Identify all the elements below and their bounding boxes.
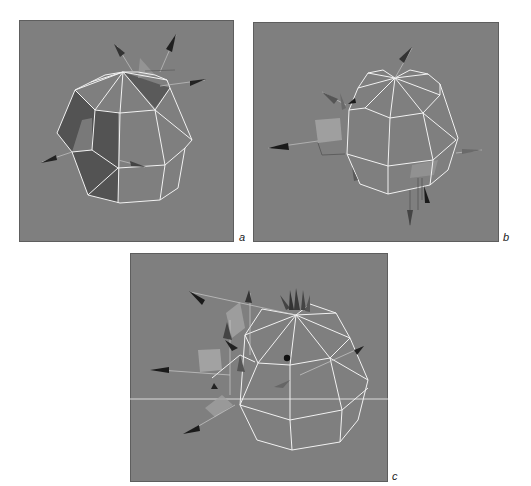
panel-label-b: b [503, 231, 509, 243]
viewport-panel-b [253, 22, 499, 242]
viewport-panel-c [130, 253, 388, 482]
cone-arrow-icons [41, 34, 206, 167]
viewport-panel-a [19, 20, 234, 242]
wireframe-mesh-a [19, 20, 234, 242]
panel-label-a: a [239, 231, 245, 243]
wireframe-mesh-b [253, 22, 499, 242]
wireframe-mesh-c [130, 253, 388, 482]
panel-label-c: c [392, 470, 398, 482]
